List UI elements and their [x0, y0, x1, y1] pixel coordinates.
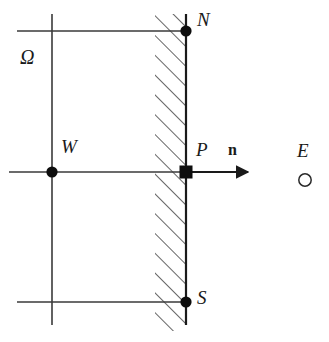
node-label-N: N: [197, 10, 210, 29]
node-marker-E: [299, 174, 311, 186]
diagram-canvas: [0, 0, 329, 342]
node-marker-P: [180, 166, 193, 179]
node-marker-S: [180, 296, 191, 307]
node-label-S: S: [197, 288, 207, 307]
domain-label-omega: Ω: [20, 47, 34, 67]
node-marker-N: [180, 25, 191, 36]
node-label-E: E: [297, 141, 309, 160]
node-marker-W: [46, 166, 57, 177]
normal-vector-label-n: n: [228, 142, 237, 158]
figure-root: Ω W N P S n E: [0, 0, 329, 342]
node-label-P: P: [196, 140, 208, 159]
node-label-W: W: [61, 137, 77, 156]
